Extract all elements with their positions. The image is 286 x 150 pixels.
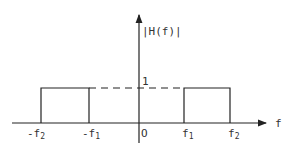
unit-level-label: 1 [142,75,149,88]
tick-neg-f2: -f2 [27,127,45,141]
tick-neg-f1: -f1 [82,127,100,141]
passband-positive [184,88,230,123]
x-axis-label: f [275,117,282,130]
y-axis-label: |H(f)| [142,25,182,38]
passband-negative [41,88,89,123]
bandpass-diagram: |H(f)| f 1 O -f2 -f1 f1 f2 [0,0,286,150]
origin-label: O [141,127,148,140]
tick-f1: f1 [182,127,194,141]
tick-f2: f2 [228,127,240,141]
